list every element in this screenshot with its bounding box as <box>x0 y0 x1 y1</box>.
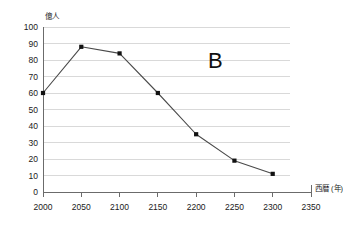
gridlines <box>43 27 290 176</box>
data-point-2200 <box>194 132 198 136</box>
y-tick-label-20: 20 <box>29 154 39 164</box>
chart-annotations: B <box>208 48 223 73</box>
y-tick-label-100: 100 <box>24 22 38 32</box>
x-axis-tick-marks <box>43 185 311 197</box>
x-tick-label-2100: 2100 <box>110 202 129 212</box>
data-point-2000 <box>41 91 45 95</box>
x-axis-label: 西暦 (年) <box>315 183 343 193</box>
x-tick-label-2200: 2200 <box>187 202 206 212</box>
data-point-markers <box>41 45 275 176</box>
y-tick-label-0: 0 <box>33 187 38 197</box>
x-tick-label-2250: 2250 <box>225 202 244 212</box>
y-tick-label-30: 30 <box>29 138 39 148</box>
y-tick-label-90: 90 <box>29 39 39 49</box>
x-tick-label-2150: 2150 <box>148 202 167 212</box>
y-tick-label-60: 60 <box>29 88 39 98</box>
y-tick-label-50: 50 <box>29 105 39 115</box>
x-tick-label-2050: 2050 <box>72 202 91 212</box>
y-tick-label-10: 10 <box>29 171 39 181</box>
data-series <box>41 45 275 176</box>
y-tick-label-70: 70 <box>29 72 39 82</box>
data-point-2050 <box>79 45 83 49</box>
chart-container: 0102030405060708090100 20002050210021502… <box>0 0 343 228</box>
x-axis-tick-labels: 20002050210021502200225023002350 <box>34 202 321 212</box>
y-tick-label-40: 40 <box>29 121 39 131</box>
y-axis-label: 億人 <box>45 11 60 21</box>
series-label-b: B <box>208 48 223 73</box>
x-tick-label-2350: 2350 <box>302 202 321 212</box>
data-point-2250 <box>232 159 236 163</box>
y-axis-tick-labels: 0102030405060708090100 <box>24 22 38 197</box>
x-tick-label-2300: 2300 <box>263 202 282 212</box>
data-point-2150 <box>156 91 160 95</box>
line-chart: 0102030405060708090100 20002050210021502… <box>0 0 343 228</box>
series-line-b <box>43 47 273 174</box>
x-tick-label-2000: 2000 <box>34 202 53 212</box>
data-point-2100 <box>117 51 121 55</box>
y-tick-label-80: 80 <box>29 55 39 65</box>
data-point-2300 <box>271 172 275 176</box>
